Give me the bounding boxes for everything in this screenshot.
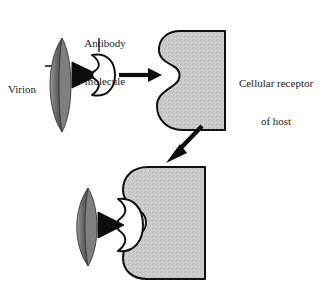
label-cellular-receptor: Cellular receptor of host bbox=[230, 52, 322, 152]
virion-crescent-bound-inner-edge bbox=[85, 188, 97, 266]
label-virion-text: Virion bbox=[8, 83, 36, 96]
label-receptor-line2: of host bbox=[230, 115, 322, 128]
label-antibody-line2: molecule bbox=[60, 75, 150, 88]
label-virion: Virion bbox=[8, 58, 36, 121]
virion-spike-triangle-bound bbox=[98, 212, 124, 238]
label-receptor-line1: Cellular receptor bbox=[230, 77, 322, 90]
label-antibody-molecule: Antibody molecule bbox=[60, 12, 150, 112]
cellular-receptor-top bbox=[157, 31, 225, 130]
label-antibody-line1: Antibody bbox=[60, 37, 150, 50]
transition-arrow-diagonal bbox=[166, 126, 202, 163]
antibody-receptor-diagram: Virion Antibody molecule Cellular recept… bbox=[0, 0, 322, 288]
